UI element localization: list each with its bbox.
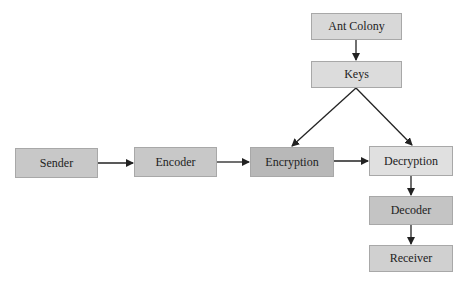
node-decoder: Decoder xyxy=(369,196,453,225)
node-label: Decoder xyxy=(391,203,432,218)
node-ant-colony: Ant Colony xyxy=(311,13,402,40)
node-label: Encoder xyxy=(156,155,196,170)
node-encoder: Encoder xyxy=(134,147,217,177)
node-label: Encryption xyxy=(265,155,318,170)
node-label: Keys xyxy=(344,67,369,82)
arrow-keys-decryption xyxy=(356,88,412,145)
node-label: Sender xyxy=(40,156,73,171)
node-label: Decryption xyxy=(384,154,438,169)
node-label: Receiver xyxy=(390,251,433,266)
node-decryption: Decryption xyxy=(369,146,453,176)
node-sender: Sender xyxy=(15,148,98,178)
node-receiver: Receiver xyxy=(369,245,453,272)
node-label: Ant Colony xyxy=(328,19,384,34)
node-keys: Keys xyxy=(311,61,402,88)
arrow-keys-encryption xyxy=(292,88,356,146)
node-encryption: Encryption xyxy=(250,147,334,177)
